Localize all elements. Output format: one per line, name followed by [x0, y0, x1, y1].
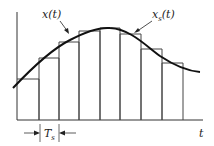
signal-label: x(t)	[42, 8, 61, 21]
pulse-1	[17, 79, 39, 120]
sampled-arrowhead-icon	[134, 28, 140, 33]
sampled-pulses	[17, 28, 183, 120]
pulse-7	[141, 49, 162, 120]
pulse-3	[59, 42, 79, 120]
ts-arrowhead-left-icon	[34, 131, 40, 136]
signal-arrowhead-icon	[64, 28, 69, 34]
sample-and-hold-diagram: x(t) xs(t) Ts t	[0, 0, 214, 146]
pulse-8	[162, 63, 183, 120]
pulse-6	[120, 34, 141, 120]
pulse-4	[79, 31, 100, 120]
pulse-5	[100, 28, 120, 120]
ts-arrowhead-right-icon	[59, 131, 65, 136]
pulse-2	[39, 58, 59, 120]
sampled-label: xs(t)	[152, 8, 175, 23]
period-label: Ts	[44, 127, 55, 142]
time-axis-label: t	[199, 127, 204, 140]
